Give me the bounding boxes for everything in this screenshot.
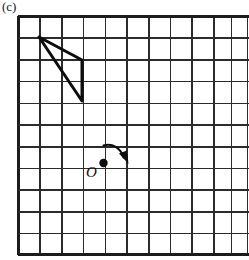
shaded-triangle (39, 37, 82, 101)
grid-vertical-lines (19, 16, 248, 255)
rotation-arc-arrow (104, 145, 129, 164)
figure-container: (c) (0, 0, 249, 260)
grid-figure-svg (0, 0, 249, 260)
origin-point-label: O (86, 165, 97, 180)
origin-dot (99, 159, 107, 167)
